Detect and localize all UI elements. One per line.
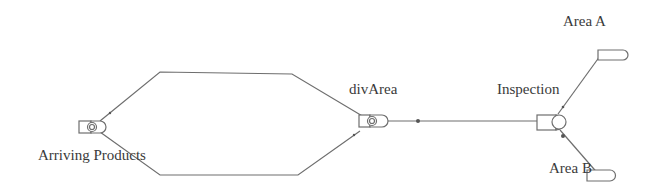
sink-node-area-a[interactable] bbox=[598, 50, 628, 60]
edge-inspection-to-area-a[interactable] bbox=[558, 56, 600, 114]
edge-marker bbox=[562, 106, 565, 109]
edge-marker bbox=[561, 134, 565, 138]
label-arriving-products: Arriving Products bbox=[38, 148, 146, 163]
label-area-b: Area B bbox=[549, 161, 592, 176]
edge-marker bbox=[109, 112, 111, 114]
divider-node-divarea[interactable] bbox=[359, 115, 388, 127]
server-node-inspection[interactable] bbox=[537, 115, 566, 130]
edge-marker bbox=[353, 134, 355, 136]
label-divarea: divArea bbox=[349, 82, 397, 97]
label-area-a: Area A bbox=[563, 14, 606, 29]
edge-arriving-to-divarea-upper[interactable] bbox=[100, 72, 364, 121]
source-node-arriving-products[interactable] bbox=[79, 121, 106, 133]
label-inspection: Inspection bbox=[497, 82, 559, 97]
edge-midpoint-dot bbox=[416, 119, 420, 123]
diagram-canvas: Arriving Products divArea Inspection Are… bbox=[0, 0, 650, 192]
